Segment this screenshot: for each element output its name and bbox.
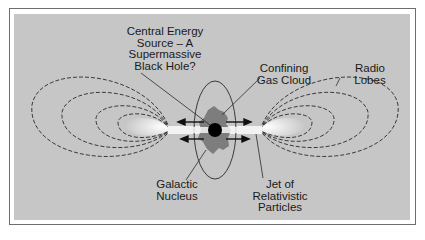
label-radio-lobes: Radio Lobes: [345, 63, 395, 86]
leader-black-hole: [141, 73, 210, 125]
leader-radio-lobes: [336, 78, 340, 86]
radio-lobe-right: [260, 77, 398, 156]
leader-nucleus: [186, 150, 206, 180]
radio-lobe-left: [32, 77, 170, 156]
label-central-energy-source: Central Energy Source – A Supermassive B…: [95, 26, 235, 72]
label-jet: Jet of Relativistic Particles: [240, 179, 320, 214]
leader-jet: [256, 134, 263, 178]
label-confining-gas-cloud: Confining Gas Cloud: [244, 63, 324, 86]
label-galactic-nucleus: Galactic Nucleus: [147, 179, 207, 202]
black-hole: [208, 123, 222, 137]
